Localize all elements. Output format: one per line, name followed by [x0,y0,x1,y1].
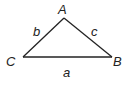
side-label-b: b [33,24,40,39]
side-label-c: c [91,24,98,39]
triangle-diagram: A B C a b c [0,0,124,86]
vertex-label-c: C [6,54,16,69]
side-label-a: a [63,65,70,80]
vertex-label-b: B [113,54,122,69]
vertex-label-a: A [57,2,67,17]
side-c [64,18,112,57]
side-b [23,18,64,57]
